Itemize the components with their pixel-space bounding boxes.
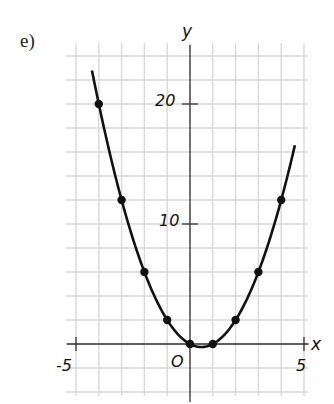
x-tick-label-min: -5 xyxy=(56,356,72,375)
parabola-chart: x y O -5 5 10 20 xyxy=(0,0,334,404)
data-point xyxy=(209,340,217,348)
data-point xyxy=(277,196,285,204)
data-point xyxy=(231,316,239,324)
y-tick-label-10: 10 xyxy=(159,211,179,230)
data-point xyxy=(95,100,103,108)
parabola-curve xyxy=(92,71,295,347)
data-point xyxy=(254,268,262,276)
data-point xyxy=(186,340,194,348)
data-point xyxy=(140,268,148,276)
y-tick-label-20: 20 xyxy=(155,91,175,110)
data-point xyxy=(163,316,171,324)
y-axis-label: y xyxy=(181,21,193,41)
x-tick-label-max: 5 xyxy=(296,356,306,375)
x-axis-label: x xyxy=(310,334,322,354)
origin-label: O xyxy=(171,352,184,371)
data-point xyxy=(117,196,125,204)
